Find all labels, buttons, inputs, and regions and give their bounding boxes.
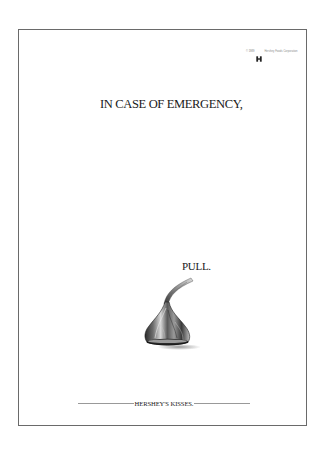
brand-signature: HERSHEY'S KISSES.: [134, 400, 195, 407]
copyright-year: © 1989: [246, 50, 254, 53]
brand-signature-row: HERSHEY'S KISSES.: [78, 398, 250, 408]
call-to-action-text: PULL.: [182, 260, 211, 272]
copyright-notice: © 1989 Hershey Foods Corporation: [246, 47, 298, 55]
left-divider-rule: [78, 403, 134, 404]
copyright-company: Hershey Foods Corporation: [264, 50, 297, 53]
hersheys-kiss-with-plume-icon: [135, 272, 205, 354]
hershey-h-logo-icon: [256, 48, 262, 54]
right-divider-rule: [194, 403, 250, 404]
ad-page-frame: [18, 29, 307, 426]
headline: IN CASE OF EMERGENCY,: [100, 96, 243, 112]
